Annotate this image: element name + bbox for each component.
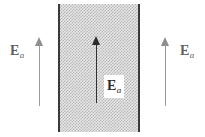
left-field-label-base: E [10, 43, 19, 58]
left-field-arrow [35, 37, 44, 106]
center-field-label: Ea [104, 75, 124, 98]
arrow-shaft [165, 44, 166, 106]
arrow-shaft [39, 44, 40, 106]
arrow-shaft [96, 43, 97, 103]
figure-canvas: Ea Ea Ea [0, 0, 205, 137]
left-field-label: Ea [10, 42, 24, 60]
slab-left-edge [58, 4, 60, 132]
right-field-arrow [161, 37, 170, 106]
slab-right-edge [138, 4, 140, 132]
center-field-label-base: E [107, 78, 116, 93]
right-field-label-base: E [180, 43, 189, 58]
center-field-label-subscript: a [117, 85, 122, 95]
left-field-label-subscript: a [20, 50, 25, 60]
center-field-arrow [92, 36, 101, 103]
right-field-label: Ea [180, 42, 194, 60]
right-field-label-subscript: a [190, 50, 195, 60]
